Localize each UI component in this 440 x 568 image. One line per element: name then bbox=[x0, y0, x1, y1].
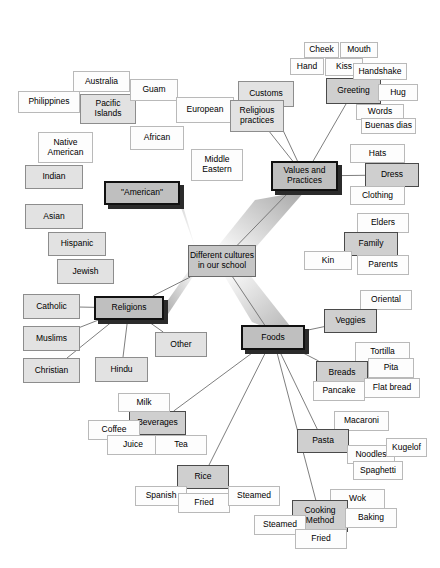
branch-values-and-practices[interactable]: Values andPractices bbox=[271, 161, 338, 191]
center-node: Different culturesin our school bbox=[188, 245, 256, 277]
node-pita[interactable]: Pita bbox=[368, 358, 414, 378]
node-indian[interactable]: Indian bbox=[25, 165, 83, 189]
branch-foods[interactable]: Foods bbox=[241, 325, 305, 350]
node-fried[interactable]: Fried bbox=[178, 493, 230, 513]
node-other[interactable]: Other bbox=[155, 332, 207, 357]
node-african[interactable]: African bbox=[130, 126, 184, 150]
node-flat-bread[interactable]: Flat bread bbox=[364, 378, 420, 398]
node-pasta[interactable]: Pasta bbox=[297, 429, 349, 453]
node-pancake[interactable]: Pancake bbox=[313, 381, 365, 401]
node-baking[interactable]: Baking bbox=[345, 508, 397, 528]
node-dress[interactable]: Dress bbox=[365, 163, 419, 187]
node-spaghetti[interactable]: Spaghetti bbox=[353, 461, 403, 480]
node-elders[interactable]: Elders bbox=[357, 213, 409, 233]
node-muslims[interactable]: Muslims bbox=[23, 326, 80, 351]
branch-religions[interactable]: Religions bbox=[94, 296, 164, 320]
node-fried[interactable]: Fried bbox=[295, 529, 347, 549]
node-tea[interactable]: Tea bbox=[155, 435, 207, 455]
node-hindu[interactable]: Hindu bbox=[95, 357, 148, 382]
node-hug[interactable]: Hug bbox=[378, 84, 418, 101]
mind-map-canvas: Different culturesin our school PacificI… bbox=[0, 0, 440, 568]
node-cheek[interactable]: Cheek bbox=[304, 42, 339, 58]
node-asian[interactable]: Asian bbox=[25, 204, 83, 229]
node-pacific-islands[interactable]: PacificIslands bbox=[80, 94, 136, 124]
node-religious-practices[interactable]: Religiouspractices bbox=[230, 100, 284, 132]
node-steamed[interactable]: Steamed bbox=[228, 486, 280, 506]
node-guam[interactable]: Guam bbox=[130, 79, 178, 101]
node-greeting[interactable]: Greeting bbox=[326, 78, 381, 104]
node-oriental[interactable]: Oriental bbox=[360, 290, 412, 310]
node-jewish[interactable]: Jewish bbox=[57, 259, 114, 284]
node-australia[interactable]: Australia bbox=[73, 71, 130, 92]
node-macaroni[interactable]: Macaroni bbox=[334, 411, 389, 431]
node-buenas-dias[interactable]: Buenas dias bbox=[361, 118, 416, 134]
node-parents[interactable]: Parents bbox=[357, 255, 409, 275]
node-catholic[interactable]: Catholic bbox=[23, 294, 80, 319]
node-handshake[interactable]: Handshake bbox=[353, 63, 407, 80]
node-native-american[interactable]: NativeAmerican bbox=[38, 132, 93, 163]
node-mouth[interactable]: Mouth bbox=[340, 42, 378, 58]
node-family[interactable]: Family bbox=[344, 232, 398, 256]
node-christian[interactable]: Christian bbox=[23, 358, 80, 383]
node-kugelof[interactable]: Kugelof bbox=[386, 438, 427, 457]
node-european[interactable]: European bbox=[176, 97, 234, 123]
node-milk[interactable]: Milk bbox=[118, 393, 170, 412]
branch-american[interactable]: "American" bbox=[104, 181, 180, 205]
node-philippines[interactable]: Philippines bbox=[18, 91, 80, 113]
node-veggies[interactable]: Veggies bbox=[324, 309, 377, 333]
node-hand[interactable]: Hand bbox=[290, 58, 324, 75]
node-juice[interactable]: Juice bbox=[107, 435, 159, 455]
node-clothing[interactable]: Clothing bbox=[350, 186, 405, 205]
node-hats[interactable]: Hats bbox=[350, 144, 405, 163]
node-hispanic[interactable]: Hispanic bbox=[48, 232, 106, 256]
node-middle-eastern[interactable]: MiddleEastern bbox=[191, 149, 243, 181]
node-layer: Different culturesin our school PacificI… bbox=[0, 0, 440, 568]
node-kin[interactable]: Kin bbox=[304, 251, 352, 270]
